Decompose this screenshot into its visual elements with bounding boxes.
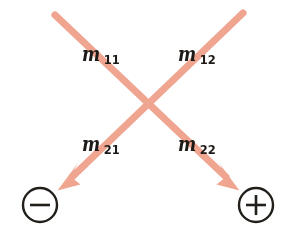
- plus-terminal: [239, 188, 273, 222]
- label-m12-subscript: 12: [199, 54, 215, 67]
- label-m12-base: m: [178, 43, 196, 64]
- label-m21-subscript: 21: [103, 144, 119, 157]
- diagram-svg: [0, 0, 288, 241]
- figure-canvas: m11 m12 m21 m22: [0, 0, 288, 241]
- label-m11: m11: [82, 43, 121, 64]
- label-m12: m12: [178, 43, 217, 64]
- label-m22: m22: [178, 133, 217, 154]
- label-m22-base: m: [178, 133, 196, 154]
- label-m11-base: m: [82, 43, 100, 64]
- label-m11-subscript: 11: [103, 54, 119, 67]
- minus-terminal: [23, 188, 57, 222]
- label-m21-base: m: [82, 133, 100, 154]
- label-m21: m21: [82, 133, 121, 154]
- label-m22-subscript: 22: [199, 144, 215, 157]
